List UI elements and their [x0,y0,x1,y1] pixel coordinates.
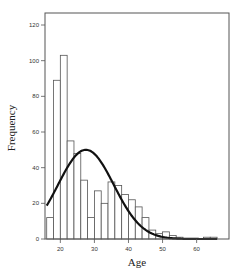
y-tick-label: 20 [32,200,39,206]
histogram-bar [60,55,67,239]
y-tick-label: 80 [32,93,39,99]
x-tick-label: 20 [57,246,64,252]
histogram-bar [94,191,101,239]
y-axis-label: Frequency [5,104,17,151]
y-tick-label: 120 [29,22,40,28]
x-tick-label: 60 [193,246,200,252]
y-tick-label: 100 [29,58,40,64]
x-axis-ticks: 2030405060 [57,239,201,252]
x-axis-label: Age [128,256,146,268]
histogram-bar [74,153,81,239]
x-tick-label: 40 [125,246,132,252]
y-tick-label: 40 [32,165,39,171]
histogram-bar [54,80,61,239]
histogram-bar [47,218,54,239]
x-tick-label: 50 [159,246,166,252]
histogram-bars [47,55,217,239]
histogram-chart: 020406080100120 2030405060 Frequency Age [0,0,240,278]
histogram-bar [81,180,88,239]
histogram-bar [67,141,74,239]
histogram-bar [101,203,108,239]
y-tick-label: 60 [32,129,39,135]
y-tick-label: 0 [36,236,40,242]
y-axis-ticks: 020406080100120 [29,22,45,242]
histogram-bar [108,182,115,239]
histogram-bar [88,218,95,239]
x-tick-label: 30 [91,246,98,252]
